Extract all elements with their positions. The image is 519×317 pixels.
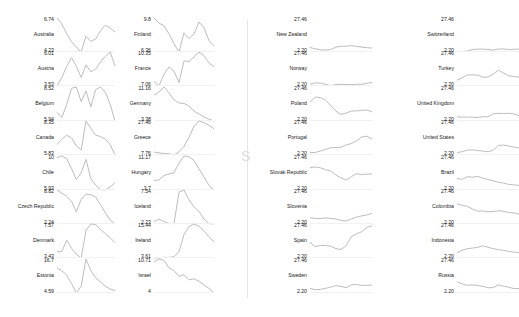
- panel-country-label: Russia: [438, 272, 454, 278]
- panel-max-label: 27.46: [294, 119, 307, 125]
- panel-max-label: 27.46: [294, 50, 307, 56]
- panel-country-label: Switzerland: [427, 31, 454, 37]
- sparkline-panel: 27.46Portugal2.20: [250, 121, 366, 155]
- panel-max-label: 27.46: [138, 119, 151, 125]
- panel-max-label: 27.46: [441, 85, 454, 91]
- panel-max-label: 27.46: [441, 222, 454, 228]
- sparkline-chart: [154, 190, 214, 224]
- panel-min-label: 2.20: [444, 288, 454, 294]
- sparkline-line: [57, 224, 115, 258]
- panel-country-label: Poland: [291, 100, 307, 106]
- sparkline-line: [310, 18, 372, 52]
- panel-max-label: 27.46: [294, 257, 307, 263]
- panel-max-label: 7.57: [44, 222, 54, 228]
- column-2: 9.8Finland6.3610.35France7.0611.16German…: [116, 18, 216, 293]
- sparkline-chart: [310, 156, 372, 190]
- panel-max-label: 27.46: [441, 188, 454, 194]
- sparkline-line: [57, 18, 115, 52]
- sparkline-chart: [154, 156, 214, 190]
- sparkline-panel: 27.46Russia2.20: [366, 259, 482, 293]
- sparkline-chart: [310, 87, 372, 121]
- sparkline-chart: [154, 259, 214, 293]
- sparkline-chart: [457, 156, 519, 190]
- sparkline-line: [154, 259, 214, 293]
- sparkline-panel: 27.46Switzerland2.20: [366, 18, 482, 52]
- panel-baseline: [154, 292, 214, 293]
- sparkline-chart: [154, 52, 214, 86]
- panel-country-label: Czech Republic: [18, 203, 54, 209]
- sparkline-line: [154, 87, 214, 121]
- sparkline-chart: [310, 259, 372, 293]
- sparkline-line: [310, 224, 372, 258]
- sparkline-line: [154, 224, 214, 258]
- panel-country-label: Brazil: [441, 169, 454, 175]
- sparkline-chart: [457, 52, 519, 86]
- sparkline-chart: [310, 52, 372, 86]
- sparkline-line: [457, 224, 519, 258]
- column-4: 27.46Switzerland2.2027.46Turkey2.2027.46…: [366, 18, 482, 293]
- panel-baseline: [57, 292, 115, 293]
- panel-country-label: Sweden: [288, 272, 307, 278]
- sparkline-panel: 9.8Finland6.36: [116, 18, 216, 52]
- sparkline-line: [310, 87, 372, 121]
- sparkline-panel: 27.46Colombia2.20: [366, 190, 482, 224]
- sparkline-line: [154, 121, 214, 155]
- sparkline-line: [310, 259, 372, 293]
- sparkline-chart: [57, 18, 115, 52]
- panel-max-label: 11.17: [138, 154, 151, 160]
- panel-max-label: 6.74: [44, 16, 54, 22]
- sparkline-line: [457, 121, 519, 155]
- panel-country-label: Canada: [36, 134, 54, 140]
- panel-country-label: Hungary: [131, 169, 151, 175]
- panel-min-label: 2.20: [297, 288, 307, 294]
- sparkline-line: [154, 190, 214, 224]
- panel-max-label: 27.46: [294, 222, 307, 228]
- panel-country-label: Germany: [130, 100, 151, 106]
- sparkline-panel: 27.46Spain2.20: [250, 224, 366, 258]
- sparkline-line: [57, 259, 115, 293]
- sparkline-line: [57, 87, 115, 121]
- sparkline-line: [457, 18, 519, 52]
- sparkline-panel: 27.46Brazil2.20: [366, 156, 482, 190]
- sparkline-line: [457, 190, 519, 224]
- sparkline-chart: [57, 259, 115, 293]
- panel-max-label: 7.54: [141, 188, 151, 194]
- sparkline-chart: [457, 224, 519, 258]
- sparkline-panel: 16.7Estonia4.59: [0, 259, 116, 293]
- sparkline-panel: 27.46United Kingdom2.20: [366, 87, 482, 121]
- sparkline-chart: [57, 121, 115, 155]
- panel-country-label: Indonesia: [432, 237, 455, 243]
- panel-max-label: 8.35: [44, 119, 54, 125]
- sparkline-chart: [154, 87, 214, 121]
- sparkline-line: [57, 121, 115, 155]
- sparkline-panel: 6.01Austria3.53: [0, 52, 116, 86]
- sparkline-panel: 7.54Iceland2.23: [116, 190, 216, 224]
- panel-country-label: Austria: [38, 65, 54, 71]
- sparkline-panel: 27.46New Zealand2.20: [250, 18, 366, 52]
- panel-max-label: 10.35: [138, 50, 151, 56]
- sparkline-panel: 27.46United States2.20: [366, 121, 482, 155]
- sparkline-chart: [457, 190, 519, 224]
- sparkline-panel: 27.46Norway2.20: [250, 52, 366, 86]
- panel-min-label: 4: [148, 288, 151, 294]
- panel-country-label: Portugal: [288, 134, 307, 140]
- sparkline-chart: [57, 224, 115, 258]
- sparkline-panel: 11.16Germany3.38: [116, 87, 216, 121]
- divider-glyph: S: [241, 148, 250, 164]
- panel-country-label: Greece: [134, 134, 151, 140]
- sparkline-line: [457, 156, 519, 190]
- sparkline-line: [154, 156, 214, 190]
- sparkline-panel: 15.44Ireland3.61: [116, 224, 216, 258]
- sparkline-chart: [457, 121, 519, 155]
- sparkline-panel: 11.17Hungary3.7: [116, 156, 216, 190]
- panel-baseline: [457, 292, 519, 293]
- sparkline-panel: 10.71Israel4: [116, 259, 216, 293]
- panel-max-label: 27.46: [441, 16, 454, 22]
- panel-country-label: New Zealand: [276, 31, 307, 37]
- column-3: 27.46New Zealand2.2027.46Norway2.2027.46…: [250, 18, 366, 293]
- sparkline-chart: [310, 18, 372, 52]
- panel-country-label: Denmark: [33, 237, 54, 243]
- panel-max-label: 27.46: [441, 257, 454, 263]
- panel-max-label: 10.71: [138, 257, 151, 263]
- sparkline-line: [310, 52, 372, 86]
